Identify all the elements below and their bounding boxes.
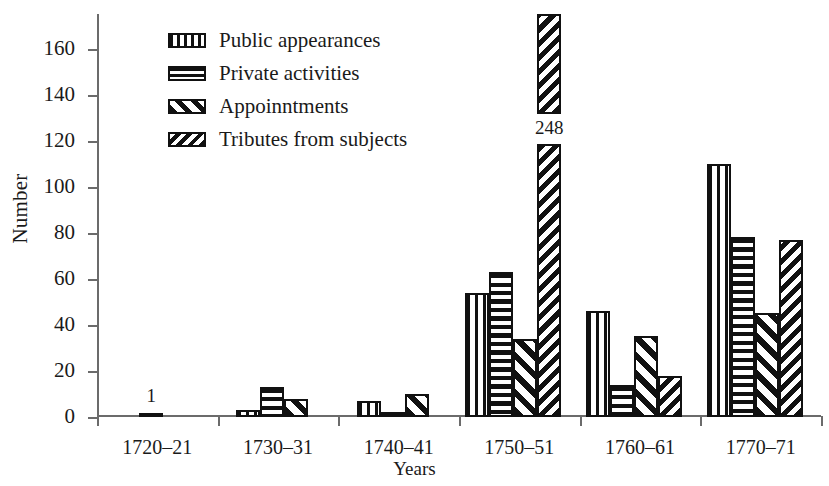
legend-swatch-horizontal-icon (168, 66, 206, 81)
bar (658, 376, 682, 417)
y-tick-label: 20 (54, 358, 75, 383)
x-tick (218, 416, 220, 426)
bar-value-label: 248 (535, 117, 564, 139)
legend-item: Tributes from subjects (168, 123, 468, 156)
bar (357, 401, 381, 417)
x-tick-label: 1770–71 (726, 436, 796, 459)
x-tick (459, 416, 461, 426)
legend-item: Private activities (168, 57, 468, 90)
x-tick-label: 1740–41 (364, 436, 434, 459)
y-tick-label: 0 (65, 404, 76, 429)
bar (284, 399, 308, 417)
bar (731, 237, 755, 417)
y-tick: 40 (88, 325, 98, 327)
y-axis-spine (97, 14, 99, 417)
y-tick: 160 (88, 49, 98, 51)
x-tick (821, 416, 823, 426)
bar-chart: Number 020406080100120140160 1720–211730… (0, 0, 829, 486)
legend-label: Private activities (219, 61, 360, 86)
bar (236, 410, 260, 417)
y-tick-label: 100 (44, 174, 76, 199)
legend-item: Public appearances (168, 24, 468, 57)
y-tick: 120 (88, 141, 98, 143)
legend-swatch-dense-diagonal-icon (168, 132, 206, 147)
bar (260, 387, 284, 417)
x-tick-label: 1760–61 (605, 436, 675, 459)
bar (634, 336, 658, 417)
bar (139, 413, 163, 417)
legend-label: Appoinntments (219, 94, 349, 119)
bar-truncated-upper (537, 14, 561, 114)
x-tick-label: 1750–51 (484, 436, 554, 459)
y-tick-label: 40 (54, 312, 75, 337)
legend-item: Appoinntments (168, 90, 468, 123)
bar-value-label: 1 (147, 385, 157, 407)
y-tick-label: 60 (54, 266, 75, 291)
bar (755, 313, 779, 417)
x-tick (338, 416, 340, 426)
x-tick-label: 1720–21 (122, 436, 192, 459)
y-tick: 80 (88, 233, 98, 235)
bar (465, 293, 489, 417)
y-tick-label: 140 (44, 82, 76, 107)
chart-legend: Public appearancesPrivate activitiesAppo… (168, 24, 468, 156)
bar (586, 311, 610, 417)
legend-label: Tributes from subjects (219, 127, 407, 152)
legend-label: Public appearances (219, 28, 381, 53)
y-axis-title: Number (8, 149, 33, 269)
x-tick (700, 416, 702, 426)
y-tick: 100 (88, 187, 98, 189)
y-tick-label: 80 (54, 220, 75, 245)
x-tick (580, 416, 582, 426)
bar (610, 385, 634, 417)
legend-swatch-diagonal-icon (168, 99, 206, 114)
y-tick: 60 (88, 279, 98, 281)
y-tick-label: 160 (44, 36, 76, 61)
bar (779, 240, 803, 417)
x-axis-title: Years (0, 458, 829, 480)
bar (707, 164, 731, 417)
legend-swatch-vertical-icon (168, 33, 206, 48)
bar (513, 339, 537, 417)
bar (381, 412, 405, 417)
bar (489, 272, 513, 417)
bar (405, 394, 429, 417)
y-tick-label: 120 (44, 128, 76, 153)
x-tick (97, 416, 99, 426)
x-tick-label: 1730–31 (243, 436, 313, 459)
y-tick: 20 (88, 371, 98, 373)
y-tick: 140 (88, 95, 98, 97)
bar-truncated-lower (537, 144, 561, 417)
